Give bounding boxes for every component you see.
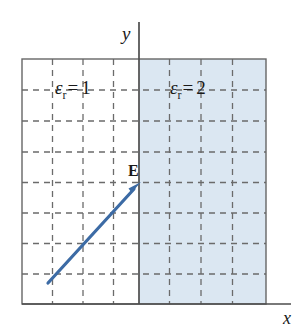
e-field-vector-label: E <box>128 163 139 179</box>
x-axis-label: x <box>283 309 291 327</box>
y-axis-label: y <box>122 24 130 43</box>
dielectric-region-1-label: εr=1 <box>55 78 91 101</box>
figure-container: εr=1 εr=2 y x E <box>0 0 308 330</box>
equals-sign-left: = <box>67 77 79 98</box>
epsilon-symbol-right: ε <box>170 77 178 98</box>
equals-sign-right: = <box>182 77 194 98</box>
epsilon-value-left: 1 <box>78 77 91 98</box>
epsilon-subscript-right: r <box>178 88 182 102</box>
epsilon-value-right: 2 <box>193 77 206 98</box>
figure-svg <box>0 0 308 330</box>
epsilon-symbol-left: ε <box>55 77 63 98</box>
dielectric-region-2-label: εr=2 <box>170 78 206 101</box>
epsilon-subscript-left: r <box>63 88 67 102</box>
